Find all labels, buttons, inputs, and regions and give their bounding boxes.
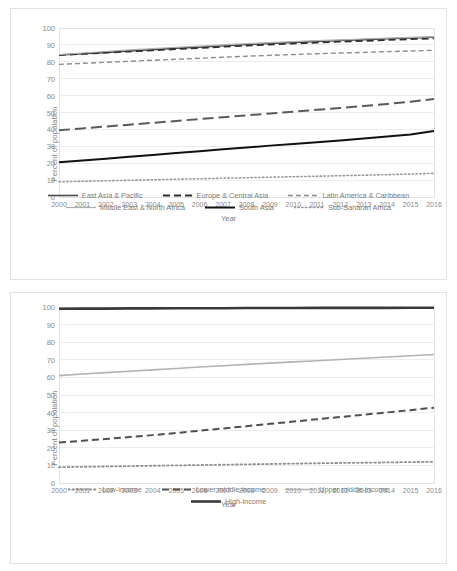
legend-item[interactable]: South Asia [205, 203, 274, 212]
legend-item[interactable]: Europe & Central Asia [163, 191, 269, 200]
figure-container: Percent of population 010203040506070809… [0, 0, 457, 571]
legend-swatch-icon [205, 203, 235, 212]
legend-item[interactable]: Middle East & North Africa [66, 203, 185, 212]
x-axis-ticks-bottom: 2000200120022003200420052006200720082009… [11, 293, 446, 563]
legend-swatch-icon [162, 485, 192, 494]
legend-label: Upper middle-income [319, 485, 388, 494]
legend-swatch-icon [294, 203, 324, 212]
legend-top: East Asia & PacificEurope & Central Asia… [11, 191, 446, 215]
legend-label: Lower middle-income [196, 485, 265, 494]
legend-label: Low-income [102, 485, 141, 494]
legend-item[interactable]: Upper middle-income [285, 485, 388, 494]
legend-label: Sub-Saharan Africa [328, 203, 391, 212]
x-axis-ticks-top: 2000200120022003200420052006200720082009… [11, 9, 446, 279]
legend-swatch-icon [288, 191, 318, 200]
legend-item[interactable]: Sub-Saharan Africa [294, 203, 391, 212]
chart-panel-regions: Percent of population 010203040506070809… [10, 8, 447, 280]
legend-label: East Asia & Pacific [82, 191, 143, 200]
legend-label: Latin America & Caribbean [322, 191, 409, 200]
legend-label: South Asia [239, 203, 274, 212]
x-axis-label-top: Year [11, 214, 446, 223]
legend-item[interactable]: High-income [191, 497, 266, 506]
legend-swatch-icon [48, 191, 78, 200]
legend-item[interactable]: Latin America & Caribbean [288, 191, 409, 200]
legend-label: High-income [225, 497, 266, 506]
legend-bottom: Low-incomeLower middle-incomeUpper middl… [11, 485, 446, 509]
legend-item[interactable]: East Asia & Pacific [48, 191, 143, 200]
legend-swatch-icon [163, 191, 193, 200]
legend-label: Europe & Central Asia [197, 191, 269, 200]
chart-panel-income: Percent of population 010203040506070809… [10, 292, 447, 564]
legend-label: Middle East & North Africa [100, 203, 185, 212]
legend-swatch-icon [191, 497, 221, 506]
legend-swatch-icon [66, 203, 96, 212]
legend-swatch-icon [68, 485, 98, 494]
legend-swatch-icon [285, 485, 315, 494]
legend-item[interactable]: Low-income [68, 485, 141, 494]
legend-item[interactable]: Lower middle-income [162, 485, 265, 494]
